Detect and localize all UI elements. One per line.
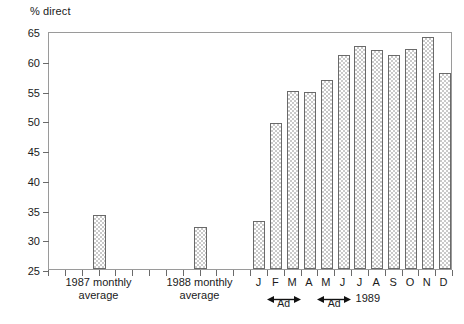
month-label-2: M (287, 276, 296, 288)
y-tick-label: 55 (28, 87, 40, 98)
year-label-1989: 1989 (356, 292, 380, 304)
month-label-3: A (305, 276, 312, 288)
month-label-8: S (389, 276, 396, 288)
month-label-6: J (357, 276, 363, 288)
y-axis-label: % direct (30, 5, 71, 17)
group-label-1987-line2: average (79, 289, 119, 301)
bar-chart: % direct 253035404550556065 1987 monthly… (0, 0, 464, 324)
month-label-1: F (272, 276, 279, 288)
bar (287, 91, 299, 270)
month-label-11: D (440, 276, 448, 288)
group-label-1988-line2: average (180, 289, 220, 301)
month-label-0: J (256, 276, 262, 288)
bar (304, 92, 316, 269)
group-label-1987-line1: 1987 monthly (65, 276, 131, 288)
bar (405, 49, 417, 269)
bar (338, 55, 350, 269)
bar (439, 73, 451, 269)
group-label-1988: 1988 monthly average (166, 276, 232, 302)
bar (388, 55, 400, 269)
group-label-1988-line1: 1988 monthly (166, 276, 232, 288)
bar (354, 46, 366, 269)
bar (321, 80, 333, 269)
group-label-1987: 1987 monthly average (65, 276, 131, 302)
y-tick-label: 40 (28, 176, 40, 187)
x-axis-labels: 1987 monthly average 1988 monthly averag… (0, 275, 464, 324)
bar-series (49, 33, 451, 269)
bar (253, 221, 265, 269)
y-tick-label: 45 (28, 147, 40, 158)
y-tick-label: 65 (28, 28, 40, 39)
month-label-5: J (340, 276, 346, 288)
plot-area: 253035404550556065 (48, 32, 452, 270)
month-label-10: N (423, 276, 431, 288)
month-label-9: O (406, 276, 415, 288)
ad-marker-0: Ad (267, 290, 301, 309)
bar (270, 123, 282, 269)
y-tick-label: 30 (28, 236, 40, 247)
bar (93, 215, 105, 269)
month-label-4: M (321, 276, 330, 288)
bar (194, 227, 206, 269)
y-tick-label: 50 (28, 117, 40, 128)
y-tick-label: 35 (28, 206, 40, 217)
bar (371, 50, 383, 269)
y-tick-label: 60 (28, 57, 40, 68)
month-label-7: A (373, 276, 380, 288)
ad-marker-1: Ad (317, 290, 351, 309)
bar (422, 37, 434, 269)
